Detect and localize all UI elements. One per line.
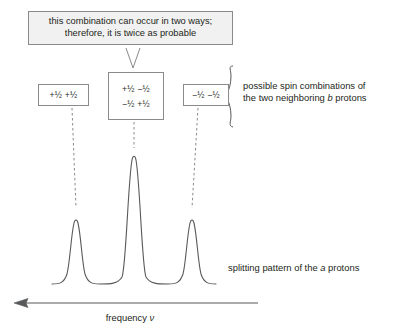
callout-line-1: this combination can occur in two ways;: [34, 16, 227, 28]
spin-box-left-row-1: +½ +½: [50, 90, 78, 100]
nmr-splitting-figure: this combination can occur in two ways; …: [0, 0, 419, 335]
splitting-pattern-post: protons: [325, 262, 359, 273]
spectrum-trace: [52, 156, 216, 284]
spin-box-center-row-1: +½ −½: [122, 84, 150, 94]
frequency-axis-label: frequency ν: [0, 312, 260, 323]
callout-box: this combination can occur in two ways; …: [28, 11, 233, 45]
frequency-axis-arrowhead: [14, 299, 28, 308]
spin-box-right-row-1: −½ −½: [192, 90, 220, 100]
splitting-pattern-label: splitting pattern of the a protons: [228, 262, 418, 273]
spin-combinations-line-2-post: protons: [333, 92, 367, 103]
spin-box-center-row-2: −½ +½: [122, 99, 150, 109]
leader-line-right: [192, 108, 198, 208]
splitting-pattern-pre: splitting pattern of the: [228, 262, 320, 273]
leader-line-left: [72, 108, 76, 208]
spin-combinations-line-1: possible spin combinations of: [243, 80, 365, 91]
callout-tail: [126, 48, 140, 68]
frequency-axis-label-nu: ν: [150, 312, 155, 323]
spin-box-right: −½ −½: [183, 84, 229, 106]
spin-box-left: +½ +½: [38, 84, 89, 106]
spin-box-center: +½ −½ −½ +½: [108, 72, 164, 120]
spin-combinations-line-2-pre: the two neighboring: [243, 92, 327, 103]
figure-vector-layer: [0, 0, 419, 335]
callout-line-2: therefore, it is twice as probable: [34, 28, 227, 40]
frequency-axis-label-text: frequency: [106, 312, 150, 323]
spin-combinations-label: possible spin combinations of the two ne…: [243, 80, 419, 105]
